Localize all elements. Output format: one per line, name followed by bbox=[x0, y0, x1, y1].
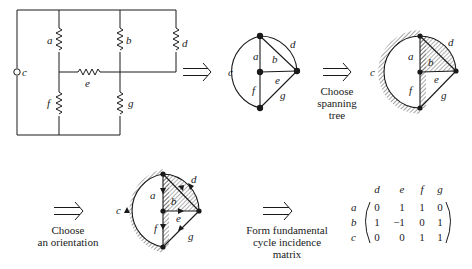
implies-arrow-1 bbox=[183, 63, 211, 81]
caption-spanning-tree: Choose spanning tree bbox=[317, 85, 357, 121]
edge-label-d: d bbox=[290, 38, 296, 50]
svg-text:f: f bbox=[154, 222, 159, 234]
resistor-e bbox=[78, 69, 100, 75]
terminal-c bbox=[14, 69, 20, 75]
svg-text:1: 1 bbox=[437, 216, 443, 228]
svg-text:matrix: matrix bbox=[273, 248, 302, 260]
caption-orientation: Choose an orientation bbox=[38, 224, 99, 248]
resistor-g bbox=[117, 92, 123, 114]
resistor-b bbox=[117, 28, 123, 50]
svg-text:a: a bbox=[408, 50, 414, 62]
svg-text:c: c bbox=[370, 66, 375, 78]
label-d: d bbox=[182, 37, 188, 49]
svg-text:Choose: Choose bbox=[52, 224, 85, 236]
right-paren bbox=[446, 202, 451, 243]
svg-text:1: 1 bbox=[419, 231, 425, 243]
fundamental-cycle-matrix: d e f g a b c 0 1 1 0 1 −1 0 1 0 0 1 1 bbox=[351, 183, 451, 243]
col-header: e bbox=[400, 183, 405, 195]
resistor-f bbox=[56, 92, 62, 114]
diagram-canvas: c a b d e f g c a b d e f g bbox=[0, 0, 472, 269]
svg-text:0: 0 bbox=[399, 231, 405, 243]
row-header: c bbox=[351, 231, 356, 243]
svg-text:b: b bbox=[171, 195, 177, 207]
svg-text:e: e bbox=[434, 73, 439, 85]
label-g: g bbox=[128, 97, 134, 109]
graph-spanning-tree bbox=[378, 30, 459, 114]
col-header: f bbox=[420, 183, 425, 195]
edge-label-c: c bbox=[228, 66, 233, 78]
caption-fundamental-matrix: Form fundamental cycle incidence matrix bbox=[246, 224, 328, 260]
svg-text:f: f bbox=[409, 84, 414, 96]
edge-label-f: f bbox=[252, 84, 257, 96]
edge-label-a: a bbox=[253, 50, 259, 62]
svg-text:0: 0 bbox=[437, 201, 443, 213]
svg-text:1: 1 bbox=[419, 201, 425, 213]
col-header: g bbox=[437, 183, 443, 195]
resistor-a bbox=[56, 28, 62, 50]
svg-text:1: 1 bbox=[399, 201, 405, 213]
svg-text:−1: −1 bbox=[393, 216, 405, 228]
implies-arrow-3 bbox=[54, 202, 83, 220]
resistor-d bbox=[173, 28, 179, 50]
svg-text:g: g bbox=[188, 230, 194, 242]
edge-label-g: g bbox=[280, 89, 286, 101]
svg-text:d: d bbox=[448, 36, 454, 48]
svg-text:0: 0 bbox=[419, 216, 425, 228]
svg-text:d: d bbox=[191, 173, 197, 185]
arrow-c bbox=[124, 207, 130, 213]
edge-label-b: b bbox=[272, 53, 278, 65]
svg-text:tree: tree bbox=[329, 109, 346, 121]
arrow-g bbox=[178, 225, 184, 231]
edge-label-e: e bbox=[275, 74, 280, 86]
svg-text:c: c bbox=[116, 204, 121, 216]
svg-text:an orientation: an orientation bbox=[38, 236, 99, 248]
svg-text:1: 1 bbox=[374, 216, 380, 228]
col-header: d bbox=[374, 183, 380, 195]
svg-text:Form fundamental: Form fundamental bbox=[246, 224, 328, 236]
implies-arrow-4 bbox=[263, 202, 292, 220]
svg-text:0: 0 bbox=[374, 201, 380, 213]
graph-undirected-labels: c a b d e f g bbox=[228, 38, 296, 101]
svg-text:cycle incidence: cycle incidence bbox=[253, 236, 321, 248]
svg-text:Choose: Choose bbox=[321, 85, 354, 97]
svg-text:1: 1 bbox=[437, 231, 443, 243]
svg-text:a: a bbox=[150, 189, 156, 201]
svg-text:b: b bbox=[428, 56, 434, 68]
row-header: a bbox=[351, 201, 357, 213]
svg-text:spanning: spanning bbox=[317, 97, 357, 109]
circuit-diagram bbox=[14, 10, 179, 135]
label-f: f bbox=[47, 97, 52, 109]
label-b: b bbox=[126, 34, 132, 46]
implies-arrow-2 bbox=[323, 63, 351, 81]
svg-text:g: g bbox=[441, 89, 447, 101]
label-a: a bbox=[47, 34, 53, 46]
svg-text:e: e bbox=[176, 212, 181, 224]
row-header: b bbox=[351, 216, 357, 228]
svg-text:0: 0 bbox=[374, 231, 380, 243]
label-e: e bbox=[85, 77, 90, 89]
left-paren bbox=[366, 202, 371, 243]
label-c: c bbox=[22, 66, 27, 78]
